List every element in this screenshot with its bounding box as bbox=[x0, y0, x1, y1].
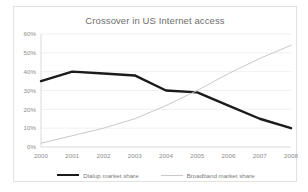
chart-legend: Dialup market share Broadband market sha… bbox=[14, 168, 298, 182]
y-axis-tick-label: 40% bbox=[24, 68, 37, 75]
plot-area: 0%10%20%30%40%50%60% 2000200120022003200… bbox=[14, 7, 298, 183]
line-chart-svg: 0%10%20%30%40%50%60% 2000200120022003200… bbox=[14, 7, 298, 183]
series-line bbox=[41, 45, 291, 143]
x-axis-tick-label: 2000 bbox=[34, 152, 48, 159]
x-axis-tick-label: 2006 bbox=[222, 152, 236, 159]
legend-label-broadband: Broadband market share bbox=[187, 172, 255, 179]
legend-swatch-dialup-icon bbox=[57, 174, 79, 176]
x-axis-tick-label: 2007 bbox=[253, 152, 267, 159]
y-axis-tick-label: 60% bbox=[24, 30, 37, 37]
legend-item-broadband: Broadband market share bbox=[161, 172, 255, 179]
x-axis-tick-label: 2004 bbox=[159, 152, 173, 159]
y-axis-tick-label: 20% bbox=[24, 106, 37, 113]
legend-label-dialup: Dialup market share bbox=[83, 172, 138, 179]
y-axis-tick-label: 0% bbox=[27, 143, 36, 150]
y-axis-tick-label: 50% bbox=[24, 49, 37, 56]
series-line bbox=[41, 72, 291, 129]
y-axis-tick-label: 30% bbox=[24, 87, 37, 94]
chart-card: Crossover in US Internet access 0%10%20%… bbox=[13, 6, 297, 182]
x-axis-tick-label: 2008 bbox=[284, 152, 298, 159]
data-series bbox=[41, 45, 291, 143]
legend-swatch-broadband-icon bbox=[161, 175, 183, 176]
x-axis-tick-label: 2002 bbox=[97, 152, 111, 159]
legend-item-dialup: Dialup market share bbox=[57, 172, 138, 179]
x-axis-tick-label: 2001 bbox=[65, 152, 79, 159]
x-axis-tick-label: 2003 bbox=[128, 152, 142, 159]
x-axis-labels: 200020012002200320042005200620072008 bbox=[34, 152, 298, 159]
y-axis-labels: 0%10%20%30%40%50%60% bbox=[24, 30, 37, 150]
x-axis-tick-label: 2005 bbox=[190, 152, 204, 159]
y-axis-tick-label: 10% bbox=[24, 124, 37, 131]
